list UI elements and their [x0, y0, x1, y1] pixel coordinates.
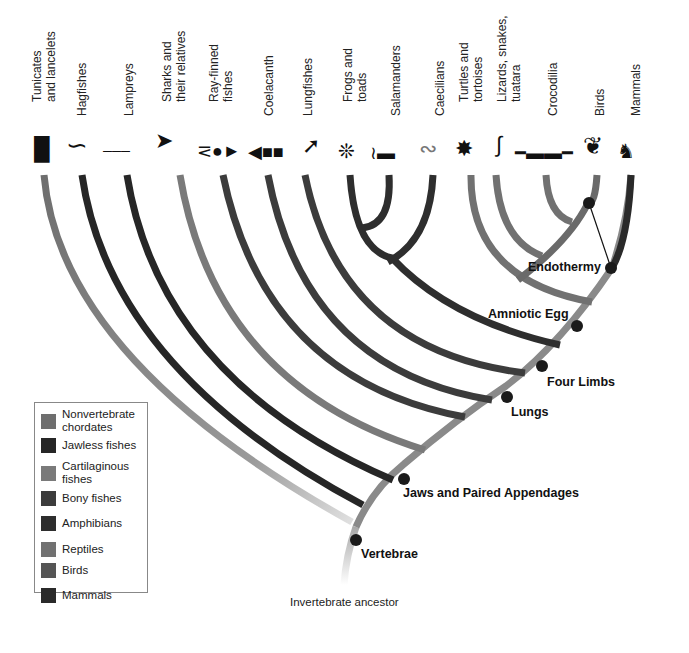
taxon-label-crocodilia: Crocodilia: [546, 6, 586, 130]
mammal-icon: ♞: [617, 140, 635, 162]
legend-item-birds: Birds: [41, 563, 88, 578]
taxon-label-turtles: Turtles and tortoises: [457, 6, 497, 130]
legend-swatch: [41, 491, 56, 506]
legend-swatch: [41, 466, 56, 481]
taxon-label-lampreys: Lampreys: [122, 6, 162, 130]
branch-lizards: [496, 175, 542, 256]
node-four-limbs: [536, 360, 548, 372]
taxon-label-ray-finned: Ray-finned fishes: [207, 6, 247, 130]
endothermy-connector: [589, 203, 611, 268]
coelacanth-icon: ◀■■: [248, 141, 284, 163]
node-endothermy: [605, 262, 617, 274]
lamprey-icon: ⎯⎯⎯: [103, 139, 130, 161]
taxon-label-lungfishes: Lungfishes: [301, 6, 341, 130]
frog-icon: ❊: [338, 140, 355, 162]
trait-label-lungs: Lungs: [511, 405, 549, 419]
ray-finned-fish-icon: ⋜●►: [197, 140, 241, 162]
legend-item-jawless-fishes: Jawless fishes: [41, 438, 136, 453]
legend-item-amphibians: Amphibians: [41, 516, 122, 531]
turtle-icon: ✸: [455, 138, 473, 160]
legend-item-bony-fishes: Bony fishes: [41, 491, 121, 506]
node-endothermy-birds: [583, 197, 595, 209]
taxon-label-birds: Birds: [593, 6, 633, 130]
legend-swatch: [41, 588, 56, 603]
crocodile-icon: ━▬▬━: [515, 142, 573, 164]
legend-swatch: [41, 563, 56, 578]
legend: Nonvertebrate chordates Jawless fishes C…: [34, 402, 148, 593]
branch-turtles: [471, 175, 592, 302]
trait-label-endothermy: Endothermy: [528, 260, 601, 274]
node-vertebrae: [350, 534, 362, 546]
lizard-icon: ∫: [496, 134, 502, 156]
main-trunk: [356, 175, 631, 527]
legend-swatch: [41, 438, 56, 453]
legend-swatch: [41, 414, 56, 429]
salamander-icon: ≀▬: [370, 142, 395, 164]
branch-crocodilia: [546, 175, 572, 222]
legend-swatch: [41, 542, 56, 557]
lungfish-icon: ➚: [302, 135, 320, 157]
root-label: Invertebrate ancestor: [290, 596, 399, 608]
taxon-label-frogs: Frogs and toads: [341, 6, 381, 130]
branch-lungfishes: [305, 175, 525, 373]
hagfish-icon: ∽: [66, 134, 88, 156]
shark-icon: ➤: [155, 130, 173, 152]
taxon-label-lizards: Lizards, snakes, tuatara: [495, 6, 535, 130]
bird-icon: ❦: [583, 135, 603, 157]
taxon-label-hagfishes: Hagfishes: [75, 6, 115, 130]
legend-item-mammals: Mammals: [41, 588, 112, 603]
trait-label-jaws: Jaws and Paired Appendages: [403, 486, 579, 500]
legend-item-reptiles: Reptiles: [41, 542, 104, 557]
node-lungs: [501, 391, 513, 403]
trait-label-amniotic-egg: Amniotic Egg: [488, 307, 569, 321]
node-jaws: [398, 473, 410, 485]
legend-swatch: [41, 516, 56, 531]
tunicate-icon: █: [34, 138, 50, 160]
taxon-label-sharks: Sharks and their relatives: [160, 6, 200, 130]
taxon-label-coelacanth: Coelacanth: [262, 6, 302, 130]
legend-item-cartilaginous-fishes: Cartilaginous fishes: [41, 460, 129, 486]
branch-coelacanth: [268, 175, 492, 400]
trait-label-vertebrae: Vertebrae: [361, 547, 418, 561]
taxon-label-salamanders: Salamanders: [389, 6, 429, 130]
caecilian-icon: ∾: [419, 138, 437, 160]
legend-item-nonvertebrate-chordates: Nonvertebrate chordates: [41, 408, 135, 434]
branch-lampreys: [127, 175, 393, 480]
branch-salamanders: [362, 175, 389, 228]
branch-caecilians: [388, 175, 433, 262]
taxon-label-tunicates: Tunicates and lancelets: [30, 6, 70, 130]
node-amniotic-egg: [571, 320, 583, 332]
taxon-label-mammals: Mammals: [629, 6, 669, 130]
trait-label-four-limbs: Four Limbs: [547, 375, 615, 389]
